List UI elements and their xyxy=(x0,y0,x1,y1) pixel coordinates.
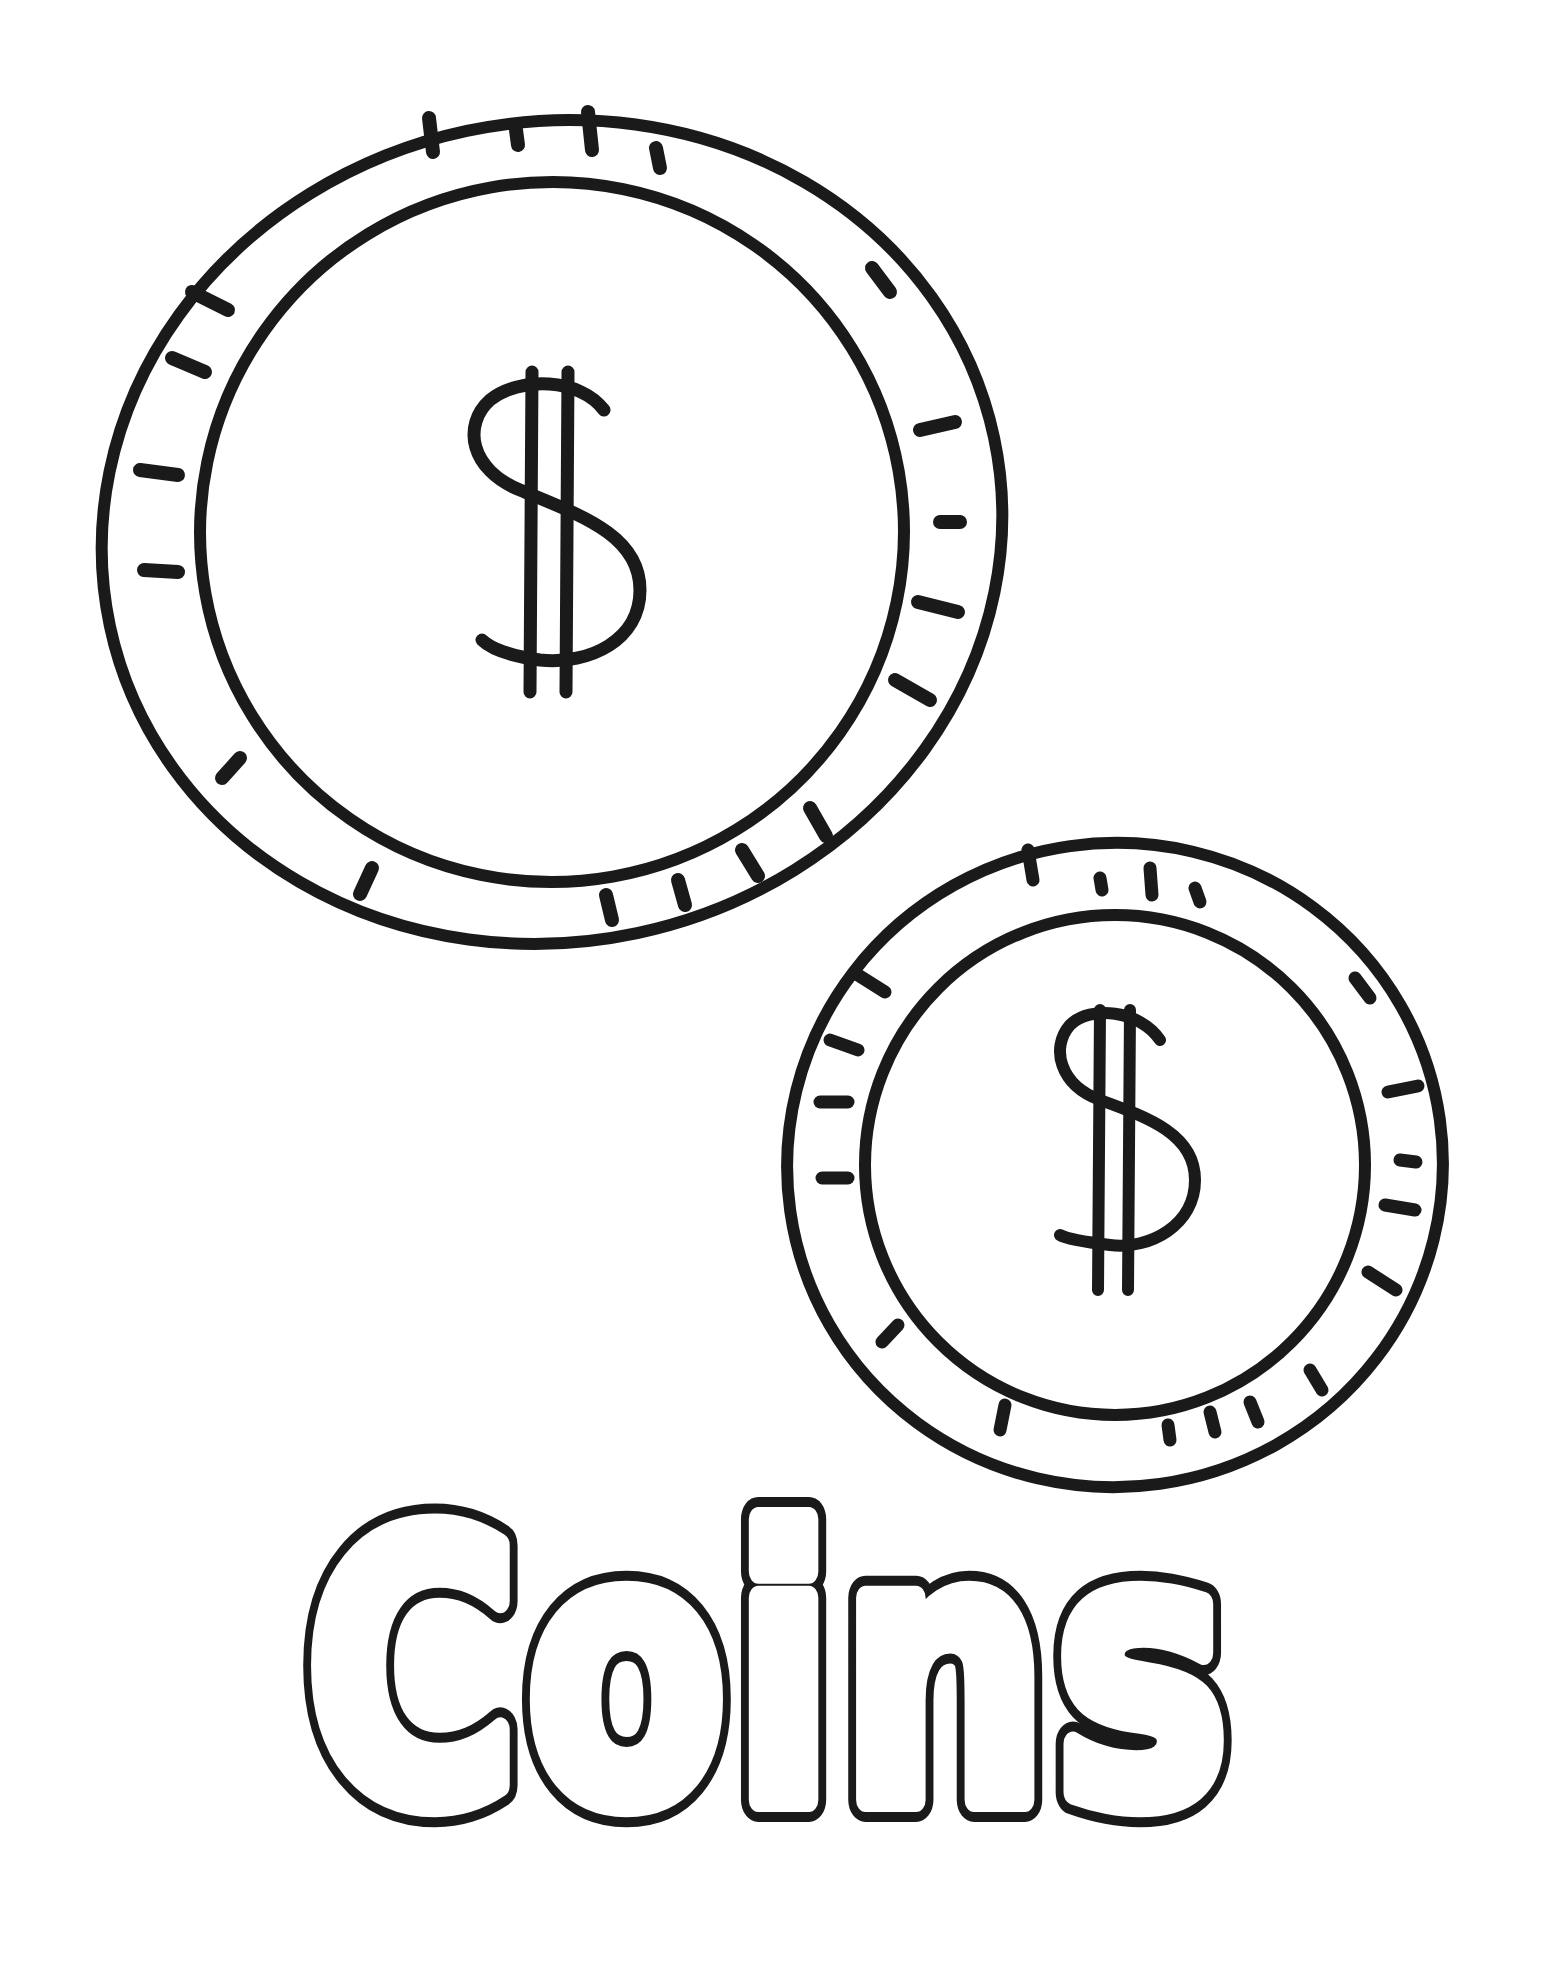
coloring-page: Coins Coins xyxy=(0,0,1542,1971)
coins-illustration: Coins Coins xyxy=(0,0,1542,1971)
small-coin-icon xyxy=(745,800,1484,1529)
title-outline: Coins Coins xyxy=(306,1457,1236,1887)
large-coin-icon xyxy=(25,37,1080,1027)
page-title-fill: Coins xyxy=(306,1457,1236,1887)
